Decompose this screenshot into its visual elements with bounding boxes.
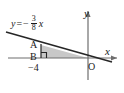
fraction-numerator: 3 — [31, 15, 37, 23]
point-b-label: B — [30, 52, 37, 62]
tick-label-neg4: −4 — [28, 63, 39, 73]
equation-variable: x — [38, 19, 43, 29]
equation-fraction: 3 8 — [31, 15, 37, 33]
point-a-label: A — [30, 40, 37, 50]
x-axis-arrow-icon — [111, 55, 117, 60]
geometry-figure: y = − 3 8 x y x O A B −4 — [0, 0, 124, 93]
shaded-triangle-oab — [41, 45, 88, 58]
x-axis-label: x — [105, 46, 110, 57]
equation-equals: = — [15, 19, 23, 29]
equation-label: y = − 3 8 x — [11, 15, 43, 33]
equation-minus: − — [23, 19, 30, 29]
fraction-denominator: 8 — [31, 23, 37, 32]
y-axis-label: y — [84, 8, 89, 19]
origin-label: O — [88, 62, 95, 72]
